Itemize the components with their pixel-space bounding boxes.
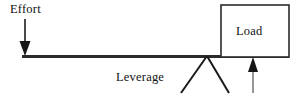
lever-diagram: Effort Load Leverage bbox=[0, 0, 297, 96]
leverage-label: Leverage bbox=[116, 71, 164, 84]
fulcrum-triangle bbox=[181, 56, 229, 93]
reaction-arrow-head bbox=[248, 57, 258, 72]
fulcrum-right-leg bbox=[207, 56, 229, 93]
fulcrum-left-leg bbox=[181, 56, 207, 93]
effort-label: Effort bbox=[10, 3, 41, 16]
reaction-force-arrow bbox=[248, 57, 258, 93]
effort-arrow-head bbox=[20, 41, 31, 56]
effort-arrow bbox=[20, 19, 31, 56]
load-label: Load bbox=[236, 25, 262, 38]
